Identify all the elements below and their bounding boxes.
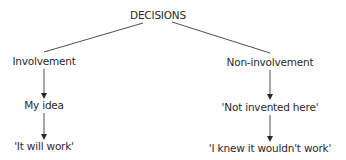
node-not-invented-here: 'Not invented here': [222, 101, 319, 113]
edge-root-involvement: [44, 23, 143, 52]
root-node-decisions: DECISIONS: [130, 9, 186, 21]
node-non-involvement: Non-involvement: [227, 56, 314, 68]
node-it-will-work: 'It will work': [14, 140, 74, 152]
edge-root-noninvolvement: [172, 22, 270, 53]
connector-lines: [0, 0, 346, 160]
node-i-knew-it-wouldnt-work: 'I knew it wouldn't work': [209, 142, 331, 154]
node-involvement: Involvement: [12, 55, 75, 67]
node-my-idea: My idea: [24, 99, 64, 111]
